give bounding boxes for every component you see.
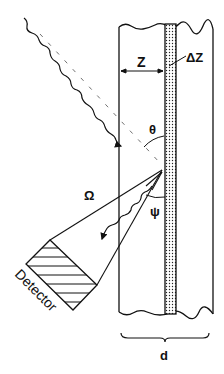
theta-label: θ	[149, 122, 156, 137]
incident-ray	[24, 18, 121, 146]
thin-layer	[165, 24, 176, 314]
layer-thickness-label: ΔZ	[186, 50, 203, 65]
theta-arc	[144, 136, 164, 147]
thickness-brace	[121, 333, 209, 342]
depth-label: Z	[137, 54, 146, 70]
psi-arc	[146, 195, 165, 198]
psi-label: ψ	[150, 204, 160, 219]
diagram-canvas: Z ΔZ θ ψ Ω Detector d	[0, 0, 224, 374]
solid-angle-label: Ω	[84, 188, 94, 203]
thickness-label: d	[160, 348, 168, 363]
